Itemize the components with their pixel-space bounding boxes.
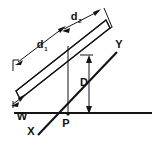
label-X: X <box>27 125 35 137</box>
diagram-canvas: d 1 d 2 D W X Y P <box>0 0 157 146</box>
slab-face <box>16 20 110 99</box>
label-d2-subscript: 2 <box>78 18 82 24</box>
slab-bottom-edge <box>20 28 110 99</box>
label-P: P <box>62 117 69 129</box>
D-arrow-head-top <box>86 55 92 63</box>
label-d2: d <box>71 10 78 22</box>
inclined-slab <box>16 20 112 99</box>
label-W: W <box>17 110 28 122</box>
label-D: D <box>80 76 88 88</box>
intersection-point-marker <box>66 112 69 115</box>
label-d1: d <box>37 38 44 50</box>
slab-depth-edge <box>110 27 112 28</box>
label-d1-subscript: 1 <box>44 46 48 52</box>
d1-arrow-head-right <box>58 26 66 33</box>
label-Y: Y <box>115 38 123 50</box>
technical-diagram: d 1 d 2 D W X Y P <box>0 0 157 146</box>
d2-arrow-head-right <box>93 9 101 16</box>
